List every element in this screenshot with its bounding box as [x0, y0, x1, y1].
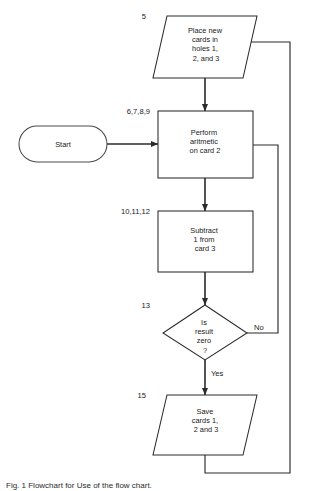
- flowchart-canvas: Place new cards in holes 1, 2, and 3 5 S…: [0, 0, 310, 491]
- start-label: Start: [55, 140, 71, 149]
- step-label-save-cards: 15: [138, 391, 146, 400]
- node-is-result-zero[interactable]: Is result zero ?: [163, 305, 247, 360]
- step-label-place-cards: 5: [142, 12, 146, 21]
- figure-caption: Fig. 1 Flowchart for Use of the flow cha…: [6, 481, 304, 491]
- node-save-cards[interactable]: Save cards 1, 2 and 3: [153, 395, 257, 455]
- edge-label-no: No: [254, 323, 264, 332]
- step-label-perform-arithmetic: 6,7,8,9: [127, 107, 150, 116]
- perform-arithmetic-label: Perform aritmetic on card 2: [190, 128, 221, 155]
- place-cards-label: Place new cards in holes 1, 2, and 3: [188, 26, 224, 63]
- node-place-cards[interactable]: Place new cards in holes 1, 2, and 3: [153, 16, 257, 78]
- node-subtract[interactable]: Subtract 1 from card 3: [158, 211, 253, 272]
- node-perform-arithmetic[interactable]: Perform aritmetic on card 2: [158, 111, 253, 178]
- edge-label-yes: Yes: [211, 369, 224, 378]
- node-start[interactable]: Start: [19, 126, 107, 162]
- step-label-is-result-zero: 13: [142, 301, 150, 310]
- step-label-subtract: 10,11,12: [121, 207, 150, 216]
